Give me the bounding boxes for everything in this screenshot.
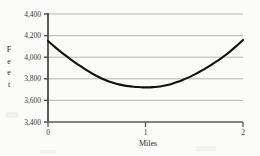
y-tick-label: 4,000 bbox=[11, 53, 41, 62]
x-axis-label: Miles bbox=[118, 139, 178, 148]
x-tick-label: 1 bbox=[139, 128, 153, 137]
y-axis bbox=[44, 13, 48, 122]
chart-screenshot: F e e t 4,400 4,200 4,000 3,800 3,600 3,… bbox=[0, 0, 260, 156]
x-tick-label: 0 bbox=[41, 128, 55, 137]
y-tick-label: 3,600 bbox=[11, 96, 41, 105]
y-tick-label: 4,200 bbox=[11, 31, 41, 40]
y-tick-label: 3,400 bbox=[11, 118, 41, 127]
x-axis bbox=[47, 122, 243, 127]
elevation-curve bbox=[48, 40, 243, 87]
y-tick-label: 4,400 bbox=[11, 10, 41, 19]
x-tick-label: 2 bbox=[236, 128, 250, 137]
y-tick-label: 3,800 bbox=[11, 74, 41, 83]
